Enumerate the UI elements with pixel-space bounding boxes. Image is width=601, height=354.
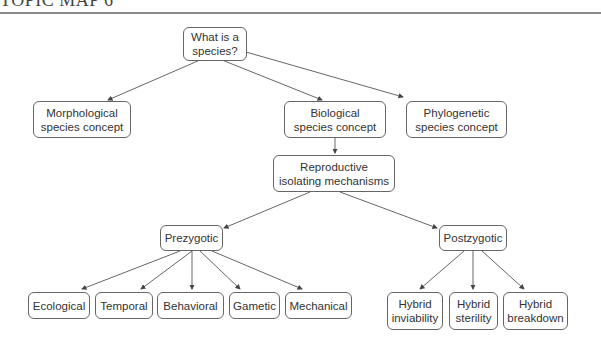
node-hybrid-inviability: Hybrid inviability <box>387 292 443 330</box>
node-mechanical: Mechanical <box>285 292 352 319</box>
node-gametic: Gametic <box>229 292 280 319</box>
node-hybrid-sterility: Hybrid sterility <box>449 292 498 330</box>
edge-prezygotic-ecological <box>82 251 180 289</box>
edge-prezygotic-mechanical <box>212 251 302 289</box>
node-phylogenetic-species-concept: Phylogenetic species concept <box>406 101 507 138</box>
edge-root-biological <box>222 60 322 100</box>
edge-root-phylogenetic <box>246 52 403 97</box>
node-hybrid-breakdown: Hybrid breakdown <box>503 292 568 330</box>
node-ecological: Ecological <box>28 292 90 319</box>
edge-root-morphological <box>108 60 200 100</box>
node-behavioral: Behavioral <box>157 292 224 319</box>
edge-reproductive-postzygotic <box>340 192 437 228</box>
node-temporal: Temporal <box>95 292 153 319</box>
node-morphological-species-concept: Morphological species concept <box>33 101 131 138</box>
node-prezygotic: Prezygotic <box>160 225 223 251</box>
node-reproductive-isolating-mechanisms: Reproductive isolating mechanisms <box>273 155 395 192</box>
edge-prezygotic-gametic <box>200 251 240 289</box>
edge-postzygotic-hybrid-inviability <box>420 251 464 289</box>
node-what-is-a-species: What is a species? <box>183 27 247 61</box>
edge-postzygotic-hybrid-breakdown <box>482 251 524 289</box>
edge-reproductive-prezygotic <box>224 192 310 228</box>
node-postzygotic: Postzygotic <box>439 225 507 251</box>
node-biological-species-concept: Biological species concept <box>284 101 386 138</box>
